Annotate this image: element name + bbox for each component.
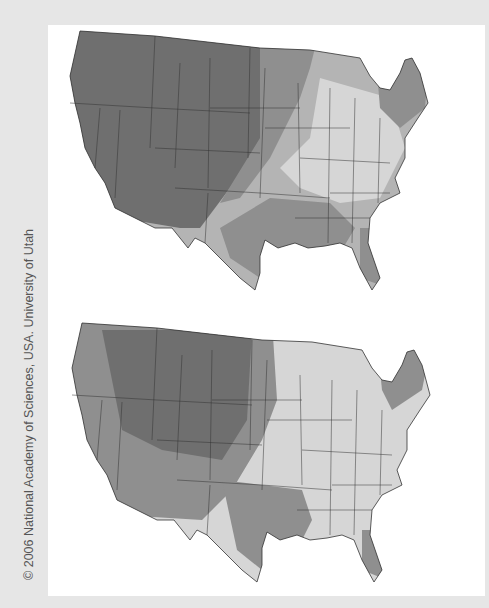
copyright-credit: © 2006 National Academy of Sciences, USA… (22, 229, 36, 580)
shade-mid (360, 228, 390, 288)
lower-map (62, 320, 472, 588)
upper-map (60, 28, 470, 296)
